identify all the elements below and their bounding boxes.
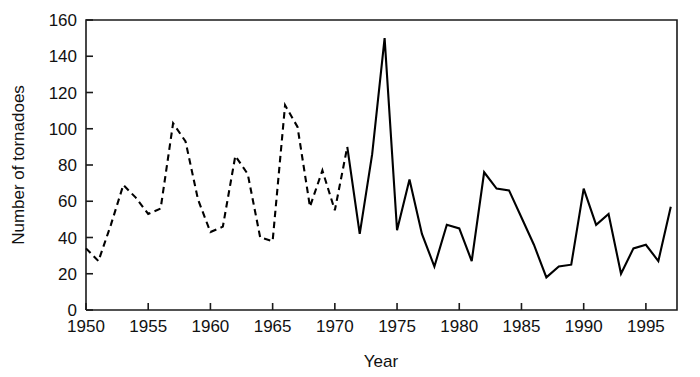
y-tick-label: 60: [58, 192, 77, 211]
tornado-line-chart-figure: 1950195519601965197019751980198519901995…: [0, 0, 700, 377]
y-axis-tick-labels: 020406080100120140160: [49, 11, 77, 320]
x-tick-label: 1965: [254, 317, 292, 336]
y-tick-label: 140: [49, 47, 77, 66]
series-line-solid: [347, 38, 671, 277]
x-tick-label: 1995: [627, 317, 665, 336]
y-tick-label: 40: [58, 229, 77, 248]
y-tick-label: 160: [49, 11, 77, 30]
x-tick-label: 1980: [440, 317, 478, 336]
series-line-dashed: [86, 105, 347, 261]
x-tick-label: 1955: [129, 317, 167, 336]
y-tick-label: 20: [58, 265, 77, 284]
y-tick-label: 80: [58, 156, 77, 175]
x-tick-label: 1970: [316, 317, 354, 336]
x-axis-ticks: [86, 303, 646, 310]
x-tick-label: 1975: [378, 317, 416, 336]
y-axis-title: Number of tornadoes: [9, 85, 28, 245]
y-tick-label: 0: [68, 301, 77, 320]
x-tick-label: 1990: [565, 317, 603, 336]
y-tick-label: 120: [49, 84, 77, 103]
x-tick-label: 1985: [503, 317, 541, 336]
y-axis-ticks: [86, 20, 93, 310]
chart-canvas: 1950195519601965197019751980198519901995…: [0, 0, 700, 377]
x-axis-title: Year: [364, 352, 399, 371]
x-axis-tick-labels: 1950195519601965197019751980198519901995: [67, 317, 665, 336]
y-tick-label: 100: [49, 120, 77, 139]
x-tick-label: 1960: [192, 317, 230, 336]
